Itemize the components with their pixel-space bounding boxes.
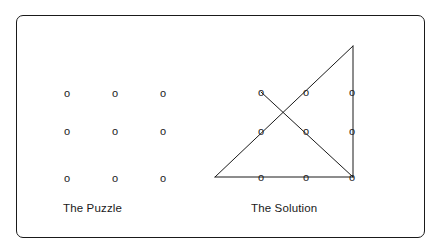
dot-marker: o xyxy=(349,126,355,137)
puzzle-caption: The Puzzle xyxy=(63,202,122,214)
solution-caption: The Solution xyxy=(251,202,317,214)
dot-marker: o xyxy=(160,88,166,99)
dot-marker: o xyxy=(258,126,264,137)
dot-marker: o xyxy=(303,87,309,98)
dot-marker: o xyxy=(160,126,166,137)
dot-marker: o xyxy=(258,87,264,98)
dot-marker: o xyxy=(349,87,355,98)
figure-root: ooooooooo ooooooooo The Puzzle The Solut… xyxy=(0,0,442,252)
dot-marker: o xyxy=(112,173,118,184)
dot-marker: o xyxy=(64,88,70,99)
dot-marker: o xyxy=(349,172,355,183)
dot-marker: o xyxy=(160,173,166,184)
dot-marker: o xyxy=(258,172,264,183)
dot-marker: o xyxy=(112,126,118,137)
dot-marker: o xyxy=(303,172,309,183)
dot-marker: o xyxy=(112,88,118,99)
dot-marker: o xyxy=(303,126,309,137)
dot-marker: o xyxy=(64,126,70,137)
dot-marker: o xyxy=(64,173,70,184)
